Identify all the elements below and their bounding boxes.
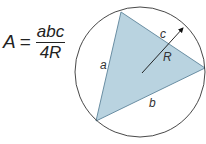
radius-label-R: R (163, 50, 172, 64)
side-label-b: b (149, 96, 156, 110)
side-label-a: a (100, 58, 107, 72)
side-label-c: c (160, 27, 166, 41)
circumcircle-diagram: a b c R (0, 0, 206, 144)
